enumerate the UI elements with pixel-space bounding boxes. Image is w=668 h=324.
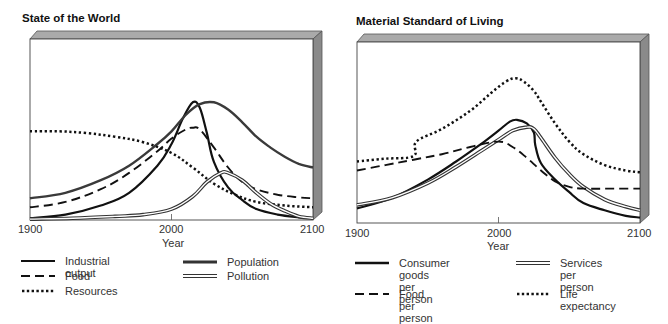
legend-label: Population xyxy=(227,256,279,268)
solid-line-swatch-icon xyxy=(21,257,55,265)
legend-label: Food xyxy=(65,270,90,282)
double-line-swatch-icon xyxy=(183,272,217,280)
dashed-line-swatch-icon xyxy=(355,290,389,298)
legend-label: Resources xyxy=(65,285,118,297)
dotted-line-swatch-icon xyxy=(21,287,55,295)
thick-gray-line-swatch-icon xyxy=(183,258,217,266)
dotted-line-swatch-icon xyxy=(516,290,550,298)
left-tick-2100: 2100 xyxy=(300,223,324,235)
right-tick-2000: 2000 xyxy=(487,227,511,239)
legend-label: Food per person xyxy=(399,288,433,324)
solid-line-swatch-icon xyxy=(355,259,389,267)
legend-item-life-expectancy: Life expectancy xyxy=(516,288,616,312)
legend-label: Life expectancy xyxy=(560,288,616,312)
double-line-swatch-icon xyxy=(516,259,550,267)
legend-item-pollution: Pollution xyxy=(183,270,269,282)
left-tick-2000: 2000 xyxy=(159,223,183,235)
dashed-line-swatch-icon xyxy=(21,272,55,280)
legend-item-food: Food xyxy=(21,270,90,282)
right-tick-2100: 2100 xyxy=(627,227,651,239)
left-tick-1900: 1900 xyxy=(18,223,42,235)
right-tick-1900: 1900 xyxy=(345,227,369,239)
legend-item-population: Population xyxy=(183,256,279,268)
legend-item-resources: Resources xyxy=(21,285,118,297)
legend-label: Pollution xyxy=(227,270,269,282)
right-x-axis-label: Year xyxy=(487,240,509,252)
legend-item-food-per-person: Food per person xyxy=(355,288,433,324)
left-x-axis-label: Year xyxy=(162,237,184,249)
